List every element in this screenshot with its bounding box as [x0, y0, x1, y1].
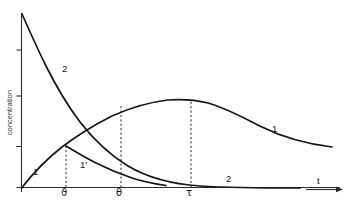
- curve-label-1-right: 1: [272, 123, 277, 134]
- curve-label-2-upper: 2: [62, 63, 67, 74]
- curve-label-2-lower: 2: [226, 173, 231, 184]
- curve-label-1-left: 1: [33, 166, 38, 177]
- concentration-time-figure: concentration 2 1 1' 2 1 ϑ θ τ t: [0, 0, 353, 205]
- x-tick-label-theta1: ϑ: [61, 187, 67, 198]
- curve-1-intermediate: [22, 100, 332, 188]
- x-axis-label: t: [317, 175, 320, 186]
- axes-group: [17, 13, 341, 192]
- y-axis-label: concentration: [5, 90, 14, 135]
- vertical-guides-group: [66, 100, 191, 188]
- x-tick-label-tau: τ: [186, 187, 192, 198]
- curve-label-1-prime: 1': [80, 159, 87, 170]
- plot-canvas: concentration 2 1 1' 2 1 ϑ θ τ t: [0, 0, 353, 205]
- x-tick-label-theta2: θ: [116, 187, 122, 198]
